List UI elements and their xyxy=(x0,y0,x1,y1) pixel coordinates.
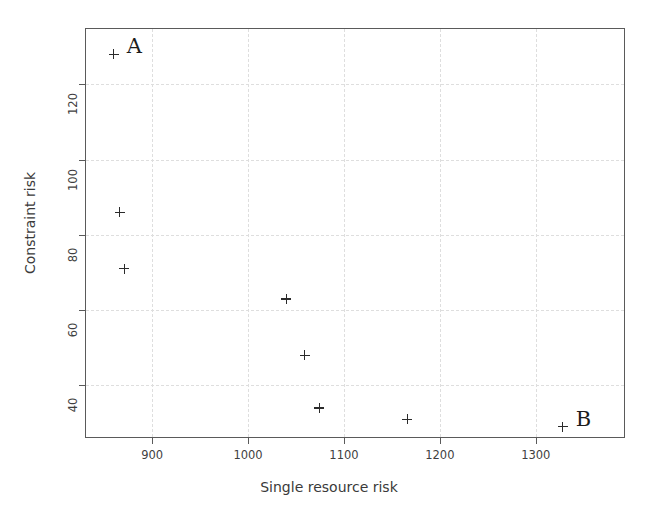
y-axis-tick-label: 60 xyxy=(66,310,80,350)
y-axis-tick-label: 120 xyxy=(66,84,80,124)
x-axis-tick-mark xyxy=(248,438,249,444)
x-axis-tick-label: 1300 xyxy=(506,448,566,462)
x-axis-tick-mark xyxy=(152,438,153,444)
point-annotation-a: A xyxy=(127,36,142,57)
x-axis-tick-mark xyxy=(344,438,345,444)
point-annotation-b: B xyxy=(576,409,591,430)
x-axis-tick-label: 900 xyxy=(122,448,182,462)
gridline-horizontal xyxy=(86,385,624,386)
y-axis-tick-label: 80 xyxy=(66,235,80,275)
scatter-plot-figure: 4060801001209001000110012001300 AB Singl… xyxy=(0,0,658,520)
gridline-vertical xyxy=(152,29,153,437)
x-axis-title: Single resource risk xyxy=(0,479,658,495)
plot-area xyxy=(85,28,625,438)
x-axis-tick-label: 1100 xyxy=(314,448,374,462)
y-axis-tick-label: 100 xyxy=(66,160,80,200)
gridline-vertical xyxy=(440,29,441,437)
x-axis-tick-mark xyxy=(440,438,441,444)
gridline-vertical xyxy=(248,29,249,437)
gridline-horizontal xyxy=(86,160,624,161)
gridline-vertical xyxy=(536,29,537,437)
x-axis-tick-label: 1200 xyxy=(410,448,470,462)
y-axis-tick-label: 40 xyxy=(66,385,80,425)
x-axis-tick-label: 1000 xyxy=(218,448,278,462)
gridline-horizontal xyxy=(86,235,624,236)
gridline-vertical xyxy=(344,29,345,437)
x-axis-tick-mark xyxy=(536,438,537,444)
gridline-horizontal xyxy=(86,84,624,85)
gridline-horizontal xyxy=(86,310,624,311)
y-axis-title: Constraint risk xyxy=(22,133,38,313)
